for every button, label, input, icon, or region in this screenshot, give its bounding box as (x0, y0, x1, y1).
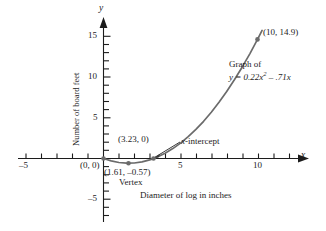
origin-label: (0, 0) (80, 161, 100, 170)
y-tick-label-15: 15 (88, 31, 97, 40)
x-axis-title: Diameter of log in inches (140, 191, 231, 200)
x-intercept-point-marker (151, 156, 156, 161)
vertex-caption: Vertex (119, 178, 143, 187)
y-tick-label-5: 5 (93, 113, 98, 122)
x-axis-name: x (301, 151, 305, 161)
equation-suffix: – .71x (267, 72, 291, 82)
endpoint-point-marker (255, 37, 260, 42)
x-tick-label-5: 5 (178, 161, 183, 170)
y-tick-label-10: 10 (88, 72, 97, 81)
y-axis-ticks (104, 36, 111, 215)
vertex-point-marker (126, 161, 131, 166)
quadratic-graph-figure: x y –5 5 10 15 10 5 –5 Number of board f… (0, 0, 326, 231)
equation-prefix: y = 0.22x (229, 72, 263, 82)
graph-of-label: Graph of (229, 60, 261, 69)
endpoint-label: (10, 14.9) (263, 28, 298, 37)
equation-label: y = 0.22x2 – .71x (229, 71, 291, 82)
x-intercept-caption-rest: -intercept (185, 136, 219, 146)
x-tick-label-neg5: –5 (19, 161, 28, 170)
y-axis-arrow-icon (100, 17, 108, 28)
x-tick-label-10: 10 (253, 161, 262, 170)
y-axis-name: y (99, 4, 103, 14)
y-axis-title: Number of board feet (72, 73, 81, 146)
x-intercept-caption: x-intercept (181, 137, 219, 146)
x-intercept-coordinates-label: (3.23, 0) (118, 135, 149, 144)
y-tick-label-neg5: –5 (88, 194, 97, 203)
origin-point-marker (101, 156, 106, 161)
